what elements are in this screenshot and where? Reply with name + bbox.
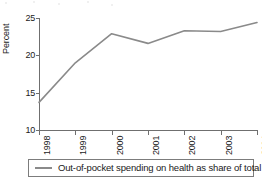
plot-area [39,18,258,131]
y-axis-tick-label-text: 10 [25,126,35,135]
x-axis-tick-label: 2001 [152,136,161,155]
y-axis-tick-label: 20 [18,51,35,60]
x-axis-tick [257,131,258,135]
x-axis-tick-label: 1999 [79,136,88,155]
y-axis-tick-label: 15 [18,89,35,98]
x-axis-tick [39,131,40,135]
y-axis-tick-label-text: 25 [25,14,35,23]
y-axis-tick-label-text: 15 [25,89,35,98]
x-axis-tick-label: 2003 [225,136,234,155]
legend-line-swatch [35,167,52,169]
x-axis-tick-label: 1998 [43,136,52,155]
y-axis-tick-label: 25 [18,14,35,23]
y-axis-title: Percent [2,24,11,54]
legend-item-label: Out-of-pocket spending on health as shar… [58,163,261,173]
chart-figure: Percent 10152025 19981999200020012002200… [0,0,262,185]
x-axis-tick [148,131,149,135]
x-axis-tick-label: 2000 [116,136,125,155]
series-line-out-of-pocket [39,22,257,102]
x-axis-tick [112,131,113,135]
x-axis-tick-label: 2004 [261,136,262,155]
y-axis-tick-label: 10 [18,126,35,135]
x-axis-tick-label: 2002 [188,136,197,155]
chart-legend: Out-of-pocket spending on health as shar… [28,159,254,177]
x-axis-tick [75,131,76,135]
series-plot [39,18,258,131]
y-axis-tick-label-text: 20 [25,51,35,60]
x-axis-tick [184,131,185,135]
x-axis-tick [221,131,222,135]
scan-artifact [0,0,140,9]
